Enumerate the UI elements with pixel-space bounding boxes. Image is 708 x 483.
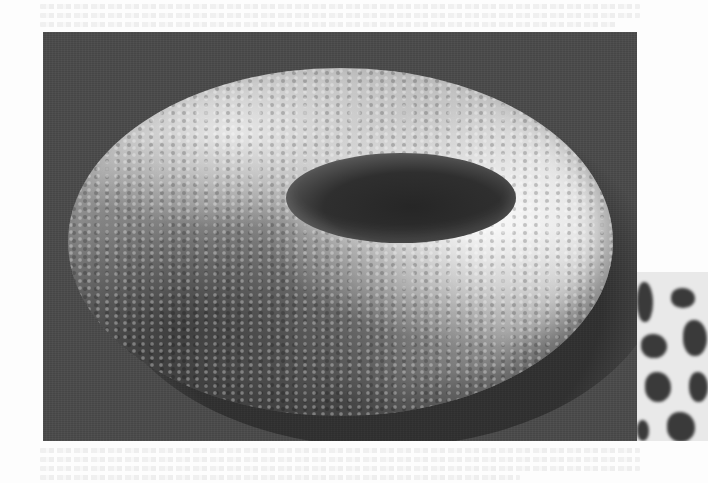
ghost-text-line bbox=[40, 475, 520, 480]
pattern-spot bbox=[645, 372, 671, 402]
ghost-text-line bbox=[40, 22, 616, 27]
page bbox=[0, 0, 708, 483]
bleed-through-text-top bbox=[40, 4, 640, 31]
pattern-spot bbox=[683, 320, 707, 356]
pattern-spot bbox=[637, 282, 653, 322]
torus-dimple-texture bbox=[68, 68, 613, 416]
pattern-spot bbox=[671, 288, 695, 308]
torus-hole bbox=[286, 153, 516, 243]
pattern-spot bbox=[689, 372, 708, 402]
ghost-text-line bbox=[40, 448, 640, 453]
pattern-spot bbox=[667, 412, 695, 441]
spotted-pattern-inset bbox=[637, 272, 708, 441]
bleed-through-text-bottom bbox=[40, 448, 640, 483]
ghost-text-line bbox=[40, 13, 640, 18]
pattern-spot bbox=[641, 334, 667, 358]
pattern-spot bbox=[637, 420, 649, 441]
ghost-text-line bbox=[40, 466, 640, 471]
ghost-text-line bbox=[40, 4, 640, 9]
torus bbox=[68, 68, 613, 416]
torus-figure bbox=[43, 32, 637, 441]
ghost-text-line bbox=[40, 457, 640, 462]
